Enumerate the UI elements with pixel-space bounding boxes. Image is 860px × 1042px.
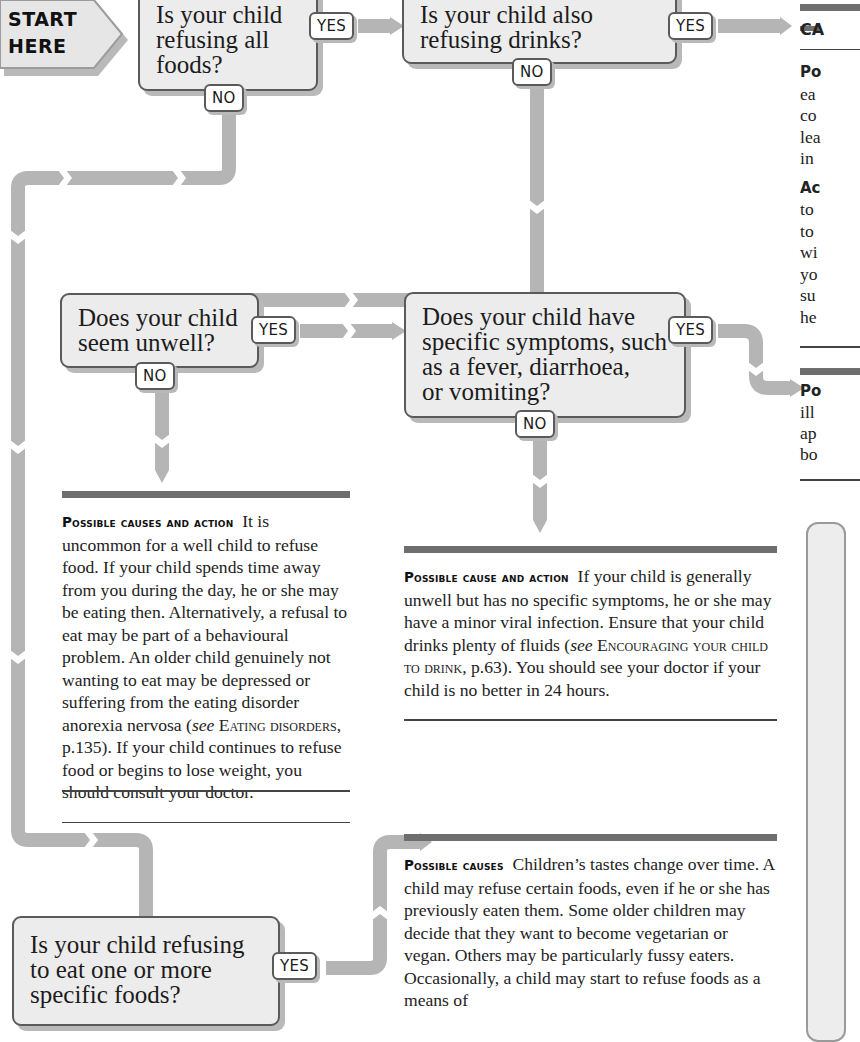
question-text: as a fever, diarrhoea, xyxy=(422,354,684,379)
answer-lead: Possible causes and action xyxy=(62,514,233,530)
q2-yes-button[interactable]: YES xyxy=(668,12,713,40)
q3-no-button[interactable]: NO xyxy=(135,362,175,390)
q5-yes-button[interactable]: YES xyxy=(272,952,317,980)
question-seem-unwell[interactable]: Does your child seem unwell? xyxy=(60,293,259,368)
answer-top-bar xyxy=(404,834,777,841)
q2-no-button[interactable]: NO xyxy=(512,58,552,86)
question-text: seem unwell? xyxy=(78,330,257,355)
q1-yes-button[interactable]: YES xyxy=(309,12,354,40)
question-text: Is your child xyxy=(156,2,316,27)
answer-top-bar xyxy=(62,491,350,498)
question-refusing-drinks[interactable]: Is your child also refusing drinks? xyxy=(402,0,677,64)
answer-lead: Possible causes xyxy=(404,857,504,873)
answer-tastes-change: Possible causes Children’s tastes change… xyxy=(404,834,777,1012)
answer-bottom-rule xyxy=(62,822,350,824)
cross-reference-link[interactable]: Eating disorders xyxy=(219,715,337,735)
answer-top-bar xyxy=(404,546,777,553)
question-text: specific foods? xyxy=(30,982,278,1007)
q4-no-button[interactable]: NO xyxy=(515,410,555,438)
question-text: refusing drinks? xyxy=(420,27,675,52)
answer-minor-viral-infection: Possible cause and action If your child … xyxy=(404,546,777,721)
question-text: Does your child xyxy=(78,305,257,330)
divider xyxy=(62,790,350,792)
question-specific-foods[interactable]: Is your child refusing to eat one or mor… xyxy=(12,916,280,1026)
answer-lead: Possible cause and action xyxy=(404,569,569,585)
q3-yes-button[interactable]: YES xyxy=(251,316,296,344)
side-panel xyxy=(806,522,846,1042)
question-text: specific symptoms, such xyxy=(422,329,684,354)
answer-refusing-drinks: CA Po ea co lea in Ac to to wi yo su he xyxy=(800,20,860,348)
start-here-label: START HERE xyxy=(8,6,77,60)
question-text: to eat one or more xyxy=(30,957,278,982)
answer-body: Possible cause and action If your child … xyxy=(404,565,777,701)
question-text: Is your child refusing xyxy=(30,932,278,957)
question-text: foods? xyxy=(156,52,316,77)
question-text: or vomiting? xyxy=(422,379,684,404)
answer-body: Possible causes Children’s tastes change… xyxy=(404,853,777,1012)
question-refusing-all-foods[interactable]: Is your child refusing all foods? xyxy=(138,0,318,91)
q1-no-button[interactable]: NO xyxy=(204,84,244,112)
answer-body: Possible causes and action It is uncommo… xyxy=(62,510,350,804)
q4-yes-button[interactable]: YES xyxy=(668,316,713,344)
question-specific-symptoms[interactable]: Does your child have specific symptoms, … xyxy=(404,292,686,418)
question-text: Does your child have xyxy=(422,304,684,329)
question-text: Is your child also xyxy=(420,2,675,27)
answer-bottom-rule xyxy=(404,719,777,721)
answer-specific-symptoms: Po ill ap bo xyxy=(800,368,860,481)
answer-heading: CA xyxy=(800,19,860,41)
answer-well-child-refusing: Possible causes and action It is uncommo… xyxy=(62,491,350,823)
question-text: refusing all xyxy=(156,27,316,52)
connector-q4-yes xyxy=(718,331,790,388)
